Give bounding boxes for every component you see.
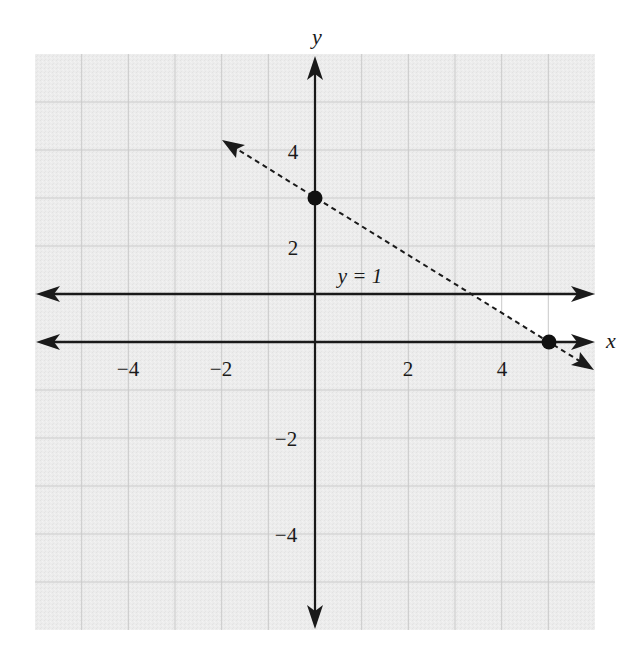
y-tick-label: −4 — [275, 523, 298, 547]
x-intercept-point — [542, 335, 557, 350]
x-tick-label: 2 — [403, 357, 414, 381]
y-axis-label: y — [310, 24, 322, 49]
coordinate-plane-chart: y x −4 −2 2 4 4 2 −2 −4 y = 1 — [0, 0, 642, 652]
x-tick-label: 4 — [497, 357, 508, 381]
y-tick-label: −2 — [275, 427, 297, 451]
y-intercept-point — [308, 191, 323, 206]
equation-label: y = 1 — [336, 264, 383, 288]
y-tick-label: 4 — [288, 140, 299, 164]
y-tick-label: 2 — [288, 236, 299, 260]
x-axis-label: x — [605, 328, 616, 353]
x-tick-label: −2 — [210, 357, 232, 381]
x-tick-label: −4 — [117, 357, 140, 381]
